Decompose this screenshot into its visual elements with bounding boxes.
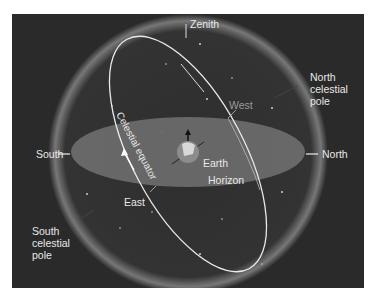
diagram-frame: Zenith North celestial pole South North … <box>12 14 364 288</box>
label-north: North <box>322 148 348 160</box>
label-zenith: Zenith <box>190 18 219 30</box>
label-east: East <box>124 196 145 208</box>
label-horizon: Horizon <box>208 174 244 186</box>
label-south: South <box>36 148 63 160</box>
label-north-celestial-pole: North celestial pole <box>310 71 348 107</box>
label-earth: Earth <box>203 157 228 169</box>
label-west: West <box>229 99 253 111</box>
label-south-celestial-pole: South celestial pole <box>32 225 70 261</box>
